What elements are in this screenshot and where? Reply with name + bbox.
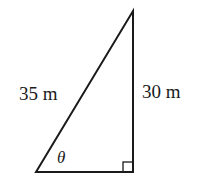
hypotenuse-label: 35 m — [19, 83, 58, 104]
triangle-diagram: 35 m 30 m θ — [0, 0, 201, 176]
angle-theta-label: θ — [57, 148, 65, 167]
right-angle-marker — [123, 162, 133, 172]
vertical-side-label: 30 m — [142, 81, 181, 102]
